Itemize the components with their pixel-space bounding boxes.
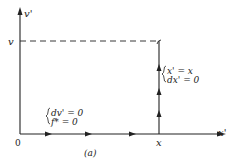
path-diagram: v' v 0 x x' dv' = 0 f* = 0 x' = x dx' = … xyxy=(0,0,238,163)
y-axis-label: v' xyxy=(24,8,32,19)
figure-caption: (a) xyxy=(84,148,97,158)
origin-label: 0 xyxy=(15,138,21,148)
path-arrow-icon xyxy=(45,132,52,137)
path-arrow-icon xyxy=(157,110,162,117)
x-axis-label: x' xyxy=(218,127,226,138)
brace-icon xyxy=(162,66,166,82)
x-tick-label: x xyxy=(156,137,162,148)
path-arrow-icon xyxy=(85,132,92,137)
path-arrow-icon xyxy=(129,132,136,137)
vertical-condition-2: dx' = 0 xyxy=(167,75,200,85)
path-arrow-icon xyxy=(157,88,162,95)
brace-icon xyxy=(46,108,50,124)
horizontal-condition-2: f* = 0 xyxy=(50,117,78,127)
y-tick-label: v xyxy=(8,36,14,47)
y-axis-arrow-icon xyxy=(18,7,23,15)
path-arrow-icon xyxy=(157,64,162,71)
